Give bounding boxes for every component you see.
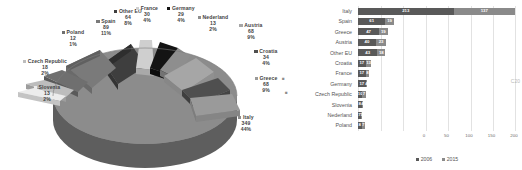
- pie-label-percent: 1%: [54, 41, 92, 47]
- legend-item-2015[interactable]: 2015: [442, 156, 459, 162]
- bar-group-other-eu[interactable]: 4318: [358, 49, 385, 56]
- bar-category-label: Austria: [292, 37, 355, 47]
- bar-category-label: Czech Republic: [292, 89, 355, 99]
- bar-segment-2006[interactable]: 47: [358, 28, 379, 35]
- bar-group-czech-republic[interactable]: 107: [358, 91, 366, 98]
- bar-segment-2006[interactable]: 17: [358, 60, 366, 67]
- bar-group-slovenia[interactable]: 84: [358, 101, 363, 108]
- legend-swatch-2006: [416, 158, 419, 161]
- legend-swatch-italy: [238, 116, 241, 119]
- bar-data-label: 17: [359, 61, 364, 65]
- bar-row: 6119: [358, 16, 516, 26]
- bar-row: 1713: [358, 58, 516, 68]
- axis-tick: 200: [510, 133, 517, 138]
- bar-segment-2015[interactable]: 19: [385, 18, 394, 25]
- bar-plot-area: 2131376119471940234318171317817410784718…: [358, 6, 516, 131]
- bar-segment-2015[interactable]: 7: [362, 122, 365, 129]
- bar-value-axis: 0 50 100 150 200 250 300 350: [358, 132, 516, 142]
- legend-swatch-slovenia: [34, 86, 37, 89]
- bar-chart-legend: 2006 2015: [358, 156, 516, 162]
- legend-swatch-spain: [96, 20, 99, 23]
- bar-category-label: Greece: [292, 27, 355, 37]
- bar-segment-2015[interactable]: 19: [379, 28, 388, 35]
- stray-marker-left2: ■: [285, 90, 288, 95]
- bar-data-label: 47: [366, 30, 371, 34]
- bar-segment-2015[interactable]: 137: [454, 8, 515, 15]
- bar-segment-2015[interactable]: 18: [377, 49, 385, 56]
- bar-segment-2006[interactable]: 17: [358, 70, 366, 77]
- bar-group-italy[interactable]: 213137: [358, 8, 515, 15]
- pie-label-percent: 2%: [14, 70, 76, 76]
- bar-category-label: Italy: [292, 6, 355, 16]
- pie-label-poland: Poland 12 1%: [54, 29, 92, 47]
- bar-group-germany[interactable]: 174: [358, 80, 367, 87]
- bar-row: 84: [358, 100, 516, 110]
- bar-row: 178: [358, 68, 516, 78]
- pie-chart-stage: Other EU 64 8% France 30 4% Germany 29 4…: [0, 0, 292, 170]
- pie-label-slovenia: Slovenia 13 2%: [24, 84, 70, 102]
- bar-group-spain[interactable]: 6119: [358, 18, 394, 25]
- bar-group-poland[interactable]: 87: [358, 122, 365, 129]
- bar-row: 213137: [358, 6, 516, 16]
- pie-label-percent: 2%: [190, 26, 236, 32]
- bar-group-austria[interactable]: 4023: [358, 39, 386, 46]
- pie-label-italy: Italy 349 44%: [228, 114, 264, 132]
- bar-category-label: France: [292, 68, 355, 78]
- pie-label-percent: 9%: [246, 87, 286, 93]
- bar-segment-2015[interactable]: 13: [366, 60, 372, 67]
- legend-swatch-2015: [442, 158, 445, 161]
- bar-group-croatia[interactable]: 1713: [358, 60, 371, 67]
- pie-label-percent: 44%: [228, 126, 264, 132]
- bar-data-label: 19: [381, 30, 386, 34]
- bar-segment-2006[interactable]: 43: [358, 49, 377, 56]
- bar-data-label: 18: [379, 51, 384, 55]
- pie-label-percent: 11%: [88, 30, 124, 36]
- bar-segment-2015[interactable]: 8: [366, 70, 370, 77]
- bar-data-label: 13: [366, 61, 371, 65]
- bar-row: 4318: [358, 48, 516, 58]
- bar-data-label: 61: [369, 19, 374, 23]
- axis-tick: 150: [488, 133, 495, 138]
- legend-label: 2015: [447, 156, 459, 162]
- pie-label-austria: Austria 68 9%: [232, 22, 270, 40]
- bar-data-label: 40: [365, 40, 370, 44]
- pie-label-percent: 4%: [246, 60, 286, 66]
- legend-swatch-czech-republic: [23, 60, 26, 63]
- axis-tick: 0: [423, 133, 425, 138]
- pie-label-nederland: Nederland 13 2%: [190, 14, 236, 32]
- bar-row: 4719: [358, 27, 516, 37]
- bar-segment-2015[interactable]: 7: [362, 91, 365, 98]
- bar-row: 107: [358, 89, 516, 99]
- legend-swatch-croatia: [254, 50, 257, 53]
- bar-segment-2015[interactable]: 23: [376, 39, 386, 46]
- legend-swatch-nederland: [198, 16, 201, 19]
- bar-group-nederland[interactable]: 71: [358, 112, 362, 119]
- bar-group-france[interactable]: 178: [358, 70, 369, 77]
- bar-data-label: 17: [359, 71, 364, 75]
- pie-label-percent: 2%: [24, 96, 70, 102]
- bar-row: 4023: [358, 37, 516, 47]
- bar-category-label: Other EU: [292, 48, 355, 58]
- legend-swatch-germany: [167, 7, 170, 10]
- bar-segment-2015[interactable]: 4: [362, 101, 364, 108]
- legend-swatch-poland: [62, 31, 65, 34]
- bar-data-label: 23: [379, 40, 384, 44]
- bar-category-label: Slovenia: [292, 100, 355, 110]
- bar-data-label: 4: [365, 82, 367, 86]
- bar-rows: 2131376119471940234318171317817410784718…: [358, 6, 516, 131]
- bar-segment-2015[interactable]: 4: [366, 80, 368, 87]
- bar-segment-2006[interactable]: 213: [358, 8, 454, 15]
- bar-chart-panel: Italy Spain Greece Austria Other EU Croa…: [292, 0, 522, 170]
- bar-data-label: 19: [387, 19, 392, 23]
- bar-chart-graphic: Italy Spain Greece Austria Other EU Croa…: [292, 6, 522, 136]
- stray-marker-left: ■: [282, 76, 285, 81]
- bar-category-label: Spain: [292, 16, 355, 26]
- legend-item-2006[interactable]: 2006: [416, 156, 433, 162]
- bar-segment-2006[interactable]: 61: [358, 18, 385, 25]
- bar-segment-2006[interactable]: 40: [358, 39, 376, 46]
- pie-label-spain: Spain 89 11%: [88, 18, 124, 36]
- bar-data-label: 8: [366, 71, 368, 75]
- legend-swatch-greece: [255, 77, 258, 80]
- bar-data-label: 43: [365, 51, 370, 55]
- bar-group-greece[interactable]: 4719: [358, 28, 388, 35]
